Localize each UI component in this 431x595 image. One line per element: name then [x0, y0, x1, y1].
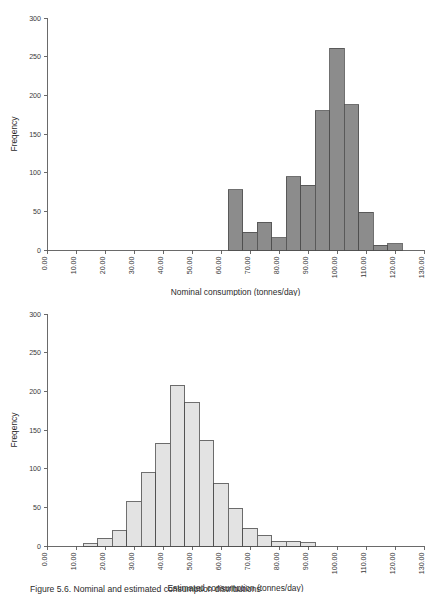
y-tick-label: 250: [29, 349, 41, 357]
histogram-bar: [301, 185, 316, 250]
chart-panel-nominal: 0501001502002503000.0010.0020.0030.0040.…: [0, 0, 431, 296]
x-tick-label: 100.00: [331, 256, 339, 278]
x-tick-label: 60.00: [215, 552, 223, 570]
y-axis-title: Freqency: [9, 116, 19, 152]
figure-caption: Figure 5.6. Nominal and estimated consum…: [30, 584, 430, 595]
x-tick-label: 20.00: [99, 256, 107, 274]
x-tick-label: 100.00: [331, 552, 339, 574]
histogram-bar: [286, 177, 301, 250]
x-tick-label: 120.00: [389, 552, 397, 574]
histogram-bar: [156, 443, 171, 546]
histogram-bar: [272, 541, 287, 546]
histogram-bar: [170, 385, 185, 546]
x-tick-label: 50.00: [186, 256, 194, 274]
histogram-bar: [257, 222, 272, 250]
histogram-bar: [243, 232, 258, 250]
x-tick-label: 130.00: [418, 552, 426, 574]
y-tick-label: 150: [29, 427, 41, 435]
histogram-bar: [257, 535, 272, 546]
histogram-bar: [243, 528, 258, 546]
x-tick-label: 30.00: [128, 256, 136, 274]
histogram-estimated: 0501001502002503000.0010.0020.0030.0040.…: [0, 296, 431, 592]
y-tick-label: 100: [29, 169, 41, 177]
y-tick-label: 0: [37, 543, 41, 551]
x-tick-label: 130.00: [418, 256, 426, 278]
x-tick-label: 0.00: [41, 552, 49, 566]
x-tick-label: 70.00: [244, 552, 252, 570]
x-tick-label: 80.00: [273, 552, 281, 570]
x-axis-title: Nominal consumption (tonnes/day): [171, 287, 301, 296]
x-tick-label: 90.00: [302, 552, 310, 570]
x-tick-label: 20.00: [99, 552, 107, 570]
histogram-bar: [112, 531, 127, 546]
histogram-bar: [373, 245, 388, 250]
y-tick-label: 0: [37, 247, 41, 255]
y-tick-label: 50: [33, 208, 41, 216]
histogram-bar: [127, 502, 142, 546]
histogram-bar: [98, 538, 113, 546]
histogram-bar: [214, 483, 229, 546]
x-tick-label: 60.00: [215, 256, 223, 274]
histogram-bar: [199, 440, 214, 546]
x-tick-label: 0.00: [41, 256, 49, 270]
y-tick-label: 150: [29, 131, 41, 139]
histogram-bar: [359, 212, 374, 250]
y-tick-label: 100: [29, 465, 41, 473]
x-tick-label: 120.00: [389, 256, 397, 278]
histogram-bar: [141, 473, 156, 546]
histogram-bar: [330, 48, 345, 250]
y-tick-label: 200: [29, 388, 41, 396]
y-tick-label: 300: [29, 15, 41, 23]
x-tick-label: 90.00: [302, 256, 310, 274]
y-tick-label: 250: [29, 53, 41, 61]
y-axis-title: Freqency: [9, 412, 19, 448]
histogram-bar: [315, 111, 330, 250]
y-tick-label: 200: [29, 92, 41, 100]
histogram-nominal: 0501001502002503000.0010.0020.0030.0040.…: [0, 0, 431, 296]
x-tick-label: 50.00: [186, 552, 194, 570]
x-tick-label: 10.00: [70, 552, 78, 570]
histogram-bar: [185, 403, 200, 546]
histogram-bar: [228, 508, 243, 546]
x-tick-label: 110.00: [360, 552, 368, 573]
y-tick-label: 300: [29, 311, 41, 319]
histogram-bar: [83, 544, 98, 546]
x-tick-label: 80.00: [273, 256, 281, 274]
histogram-bar: [344, 105, 359, 250]
x-tick-label: 10.00: [70, 256, 78, 274]
x-tick-label: 70.00: [244, 256, 252, 274]
x-tick-label: 110.00: [360, 256, 368, 277]
histogram-bar: [388, 244, 403, 250]
histogram-bar: [301, 543, 316, 546]
x-tick-label: 40.00: [157, 552, 165, 570]
histogram-bar: [272, 238, 287, 250]
histogram-bar: [228, 190, 243, 250]
y-tick-label: 50: [33, 504, 41, 512]
histogram-bar: [286, 541, 301, 546]
chart-panel-estimated: 0501001502002503000.0010.0020.0030.0040.…: [0, 296, 431, 592]
x-tick-label: 40.00: [157, 256, 165, 274]
x-tick-label: 30.00: [128, 552, 136, 570]
